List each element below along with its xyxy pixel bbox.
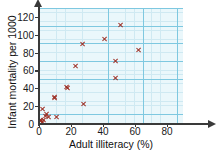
y-axis-tick-label: 0 [28, 119, 34, 130]
x-axis-label: Adult illiteracy (%) [39, 138, 183, 150]
y-axis-tick [35, 53, 38, 54]
scatter-chart-figure: 020406080020406080100120 Adult illiterac… [0, 0, 219, 154]
x-axis-tick-label: 20 [65, 126, 76, 137]
y-axis-line [38, 4, 40, 126]
x-axis-arrow-icon [208, 120, 216, 128]
x-axis-tick-label: 60 [129, 126, 140, 137]
y-axis-tick-label: 100 [17, 29, 34, 40]
y-axis-tick [35, 106, 38, 107]
y-axis-tick [35, 35, 38, 36]
y-axis-tick-label: 20 [23, 101, 34, 112]
y-axis-tick-label: 80 [23, 47, 34, 58]
y-axis-arrow-icon [34, 0, 42, 7]
y-axis-tick-label: 120 [17, 11, 34, 22]
y-axis-tick [35, 88, 38, 89]
x-axis-line [38, 123, 210, 125]
plot-area [39, 8, 183, 124]
x-axis-tick-label: 80 [161, 126, 172, 137]
y-axis-tick [35, 70, 38, 71]
y-axis-tick-label: 60 [23, 65, 34, 76]
x-axis-tick-label: 0 [36, 126, 42, 137]
major-gridlines [39, 8, 183, 124]
x-axis-tick-label: 40 [97, 126, 108, 137]
y-axis-tick-label: 40 [23, 83, 34, 94]
y-axis-tick [35, 17, 38, 18]
y-axis-label: Infant mortality per 1000 [6, 12, 18, 132]
